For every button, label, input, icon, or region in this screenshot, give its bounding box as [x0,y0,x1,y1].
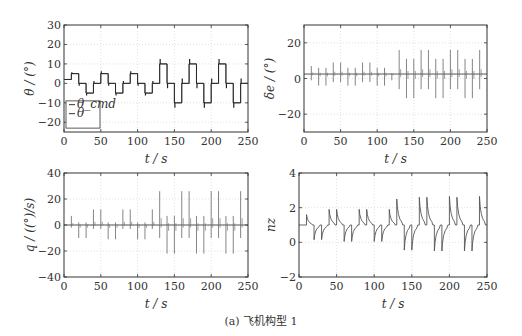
x-tick-label: 200 [201,280,222,293]
y-tick-label: 0 [54,77,61,90]
y-tick-label: 4 [289,167,296,180]
y-tick-label: 2 [289,202,296,215]
y-tick-label: −2 [280,271,296,284]
subplot-q: 050100150200250−40−2002040t / sq / ((°)/… [23,167,259,311]
y-tick-label: 20 [47,193,61,206]
series-nz [299,196,487,251]
y-tick-label: −20 [38,245,61,258]
figure-caption: (a) 飞机构型 1 [0,312,522,328]
y-axis-label: θ / (°) [23,61,37,96]
x-axis-label: t / s [382,297,405,311]
y-tick-label: 20 [287,37,301,50]
x-axis-label: t / s [145,152,168,166]
x-tick-label: 0 [301,135,308,148]
y-tick-label: 10 [47,58,61,71]
y-tick-label: 40 [47,167,61,180]
y-tick-label: 0 [54,219,61,232]
y-tick-label: −10 [38,97,61,110]
x-tick-label: 100 [364,280,385,293]
x-tick-label: 50 [94,135,108,148]
y-tick-label: 0 [289,236,296,249]
x-tick-label: 50 [330,280,344,293]
x-tick-label: 150 [401,280,422,293]
y-tick-label: −20 [38,116,61,129]
y-tick-label: −40 [38,271,61,284]
x-tick-label: 200 [201,135,222,148]
x-tick-label: 50 [334,135,348,148]
x-tick-label: 100 [367,135,388,148]
x-tick-label: 0 [296,280,303,293]
y-tick-label: 0 [294,73,301,86]
x-tick-label: 150 [164,135,185,148]
x-tick-label: 0 [61,135,68,148]
x-tick-label: 150 [403,135,424,148]
y-tick-label: 20 [47,38,61,51]
x-axis-label: t / s [384,152,407,166]
x-axis-label: t / s [145,297,168,311]
x-tick-label: 250 [477,280,498,293]
figure-canvas: 050100150200250−20−100102030t / sθ / (°)… [0,0,522,336]
x-tick-label: 0 [61,280,68,293]
y-tick-label: −20 [278,108,301,121]
x-tick-label: 100 [127,280,148,293]
legend: θ_cmdθ [66,97,116,128]
series-q [64,191,248,253]
x-tick-label: 150 [164,280,185,293]
x-tick-label: 50 [94,280,108,293]
x-tick-label: 250 [238,280,259,293]
subplot-nz: 050100150200250−2024t / snz [264,167,498,311]
subplot-theta: 050100150200250−20−100102030t / sθ / (°)… [23,19,259,166]
y-tick-label: 30 [47,19,61,32]
y-axis-label: q / ((°)/s) [23,198,37,253]
x-tick-label: 200 [439,280,460,293]
x-tick-label: 200 [440,135,461,148]
x-tick-label: 100 [127,135,148,148]
y-axis-label: nz [264,217,278,232]
subplot-delta_e: 050100150200250−20020t / sδe / (°) [263,25,498,166]
legend-entry: θ [77,106,85,120]
x-tick-label: 250 [477,135,498,148]
y-axis-label: δe / (°) [263,58,277,100]
x-tick-label: 250 [238,135,259,148]
series-delta_e [304,50,487,98]
